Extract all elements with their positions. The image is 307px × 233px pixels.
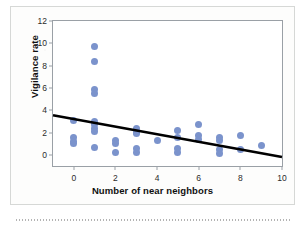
x-tick-mark (157, 166, 158, 170)
y-tick-label: 0 (42, 150, 47, 160)
x-tick-mark (198, 166, 199, 170)
trend-line-stroke (53, 115, 282, 157)
y-tick-mark (49, 132, 53, 133)
y-tick-label: 8 (42, 61, 47, 71)
x-tick-mark (240, 166, 241, 170)
x-tick-label: 4 (155, 173, 160, 183)
y-tick-mark (49, 110, 53, 111)
plot-area: 0246810120246810 (52, 20, 283, 167)
regression-line (53, 21, 282, 166)
x-tick-label: 6 (196, 173, 201, 183)
x-tick-mark (115, 166, 116, 170)
y-tick-label: 10 (38, 38, 47, 48)
y-tick-label: 6 (42, 83, 47, 93)
x-tick-mark (73, 166, 74, 170)
x-tick-label: 2 (113, 173, 118, 183)
y-tick-mark (49, 43, 53, 44)
y-tick-mark (49, 21, 53, 22)
y-tick-mark (49, 154, 53, 155)
figure-panel: Vigilance rate Number of near neighbors … (10, 6, 295, 205)
y-tick-label: 2 (42, 128, 47, 138)
x-tick-mark (282, 166, 283, 170)
page-divider (16, 219, 291, 221)
y-tick-mark (49, 65, 53, 66)
y-tick-mark (49, 87, 53, 88)
x-axis-title: Number of near neighbors (11, 185, 294, 196)
x-tick-label: 10 (277, 173, 286, 183)
y-tick-label: 4 (42, 105, 47, 115)
y-tick-label: 12 (38, 16, 47, 26)
x-tick-label: 0 (71, 173, 76, 183)
x-tick-label: 8 (238, 173, 243, 183)
y-axis-title: Vigilance rate (29, 22, 40, 112)
